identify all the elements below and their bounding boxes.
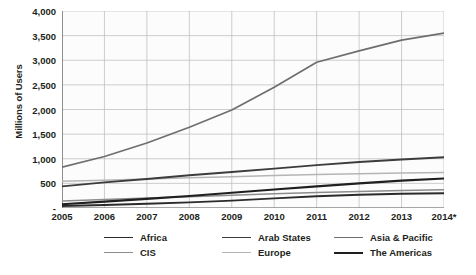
legend-item-europe[interactable]: Europe <box>222 247 291 258</box>
x-axis-tick-label: 2006 <box>94 211 115 222</box>
legend-swatch-icon <box>222 252 251 253</box>
x-axis-tick-label: 2014* <box>432 211 457 222</box>
y-axis-tick-label: - <box>16 203 56 214</box>
legend-label: The Americas <box>370 247 432 258</box>
y-axis-tick-label: 1,500 <box>16 129 56 140</box>
x-axis-tick-label: 2011 <box>306 211 327 222</box>
y-axis-tick-label: 2,000 <box>16 104 56 115</box>
legend-item-arab-states[interactable]: Arab States <box>222 232 311 243</box>
legend-row: CISEuropeThe Americas <box>62 247 458 262</box>
plot-svg <box>62 11 444 208</box>
legend-swatch-icon <box>334 252 363 254</box>
legend-item-cis[interactable]: CIS <box>104 247 156 258</box>
y-axis-ticks: 4,0003,5003,0002,5002,0001,5001,000500- <box>16 0 56 275</box>
legend-item-africa[interactable]: Africa <box>104 232 167 243</box>
plot-area <box>62 11 444 208</box>
legend-label: Africa <box>140 232 167 243</box>
x-axis-tick-label: 2005 <box>51 211 72 222</box>
y-axis-tick-label: 3,000 <box>16 55 56 66</box>
x-axis-tick-label: 2008 <box>179 211 200 222</box>
x-axis-tick-label: 2009 <box>221 211 242 222</box>
legend-label: CIS <box>140 247 156 258</box>
y-axis-tick-label: 1,000 <box>16 153 56 164</box>
y-axis-tick-label: 500 <box>16 178 56 189</box>
line-chart: Millions of Users 4,0003,5003,0002,5002,… <box>0 0 476 275</box>
chart-legend: AfricaArab StatesAsia & PacificCISEurope… <box>62 232 458 272</box>
legend-label: Arab States <box>258 232 311 243</box>
legend-swatch-icon <box>104 252 133 253</box>
legend-swatch-icon <box>334 237 363 238</box>
legend-row: AfricaArab StatesAsia & Pacific <box>62 232 458 247</box>
legend-item-asia-pacific[interactable]: Asia & Pacific <box>334 232 433 243</box>
x-axis-tick-label: 2007 <box>136 211 157 222</box>
y-axis-tick-label: 4,000 <box>16 6 56 17</box>
x-axis-tick-label: 2010 <box>264 211 285 222</box>
y-axis-tick-label: 3,500 <box>16 30 56 41</box>
x-axis-tick-label: 2012 <box>349 211 370 222</box>
legend-label: Asia & Pacific <box>370 232 433 243</box>
y-axis-tick-label: 2,500 <box>16 79 56 90</box>
legend-label: Europe <box>258 247 291 258</box>
legend-swatch-icon <box>104 237 133 238</box>
legend-swatch-icon <box>222 237 251 238</box>
legend-item-the-americas[interactable]: The Americas <box>334 247 432 258</box>
x-axis-tick-label: 2013 <box>391 211 412 222</box>
